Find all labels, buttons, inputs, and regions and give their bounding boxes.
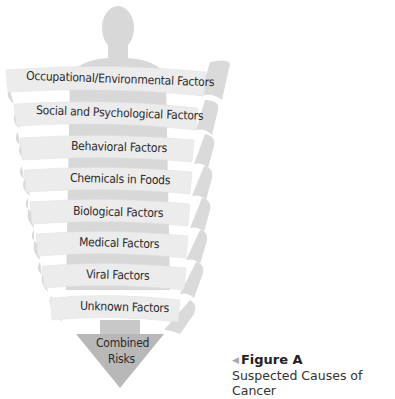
spiral-diagram: [0, 0, 395, 399]
band-label-medical: Medical Factors: [79, 235, 160, 251]
band-label-viral: Viral Factors: [86, 267, 150, 283]
result-label-line2: Risks: [108, 352, 135, 366]
band-label-behavioral: Behavioral Factors: [71, 139, 167, 156]
pointer-triangle-icon: ◀: [232, 355, 239, 365]
band-label-biological: Biological Factors: [73, 204, 164, 220]
result-label-line1: Combined: [96, 336, 149, 350]
band-label-chemicals: Chemicals in Foods: [70, 171, 171, 188]
caption-title-row: ◀Figure A: [232, 352, 395, 367]
caption-title: Figure A: [241, 352, 303, 367]
figure-caption: ◀Figure A Suspected Causes of Cancer: [232, 352, 395, 398]
caption-subtitle: Suspected Causes of Cancer: [232, 368, 395, 398]
band-label-unknown: Unknown Factors: [80, 299, 169, 315]
